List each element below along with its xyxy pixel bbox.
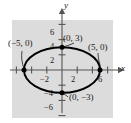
point-label-left-vertex: (−5, 0) xyxy=(8,39,33,48)
x-tick-label-minus-2: −2 xyxy=(40,75,49,84)
y-tick-label-minus-6: −6 xyxy=(44,103,53,112)
graph-canvas xyxy=(0,0,131,123)
point-label-top-vertex: (0, 3) xyxy=(63,34,83,43)
y-tick-label-4: 4 xyxy=(50,42,54,51)
y-axis-label: y xyxy=(64,1,68,10)
x-tick-label-2: 2 xyxy=(71,75,75,84)
ellipse-graph-figure: y x 6 4 2 −4 −6 −2 2 6 (−5, 0) (0, 3) (5… xyxy=(0,0,131,123)
x-axis-label: x xyxy=(121,64,125,73)
y-tick-label-minus-4: −4 xyxy=(44,89,53,98)
point-marker-bottom xyxy=(60,90,65,95)
point-label-right-vertex: (5, 0) xyxy=(88,43,108,52)
point-marker-right xyxy=(98,68,103,73)
point-marker-left xyxy=(22,68,27,73)
point-label-bottom-vertex: (0, −3) xyxy=(69,93,94,102)
x-tick-label-6: 6 xyxy=(98,75,102,84)
y-tick-label-2: 2 xyxy=(50,56,54,65)
y-tick-label-6: 6 xyxy=(50,28,54,37)
point-marker-top xyxy=(60,45,65,50)
